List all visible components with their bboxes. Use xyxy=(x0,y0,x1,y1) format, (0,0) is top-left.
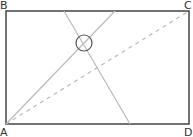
label-a: A xyxy=(0,126,8,137)
label-b: B xyxy=(0,0,8,12)
line-top-to-bottom xyxy=(64,11,130,124)
label-c: C xyxy=(184,0,192,12)
geometry-diagram: B C A D xyxy=(0,0,193,137)
label-d: D xyxy=(184,126,192,137)
line-from-a xyxy=(6,11,115,124)
